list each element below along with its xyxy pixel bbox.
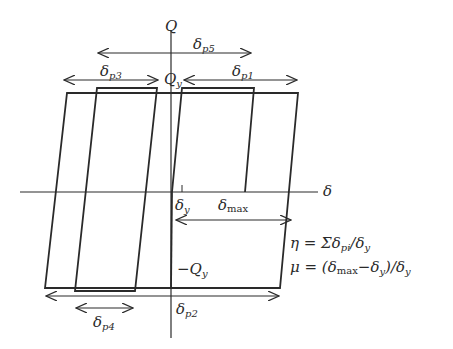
delta-max-label: δmax — [218, 196, 248, 214]
hysteresis-diagram: Q δ Qy −Qy δy δmax δp5 δp3 δp1 δp2 δp4 η… — [0, 0, 453, 349]
labels: Q δ Qy −Qy δy δmax δp5 δp3 δp1 δp2 δp4 — [93, 17, 332, 332]
q-axis-label: Q — [165, 17, 177, 35]
delta-p3-label: δp3 — [100, 62, 122, 81]
mu-equation: μ = (δmax−δy)/δy — [290, 258, 411, 277]
delta-y-label: δy — [175, 196, 190, 215]
delta-p4-label: δp4 — [93, 313, 115, 332]
neg-qy-label: −Qy — [177, 260, 208, 279]
delta-p2-label: δp2 — [176, 300, 198, 319]
delta-p1-label: δp1 — [232, 62, 254, 81]
qy-label: Qy — [164, 70, 182, 89]
outer-loop-left-return — [171, 192, 172, 288]
inner-left-loop — [75, 88, 157, 291]
equations: η = Σδpi/δy μ = (δmax−δy)/δy — [290, 234, 411, 277]
eta-equation: η = Σδpi/δy — [290, 234, 370, 253]
delta-p5-label: δp5 — [193, 35, 215, 54]
delta-axis-label: δ — [323, 182, 332, 200]
first-loop — [172, 88, 254, 192]
